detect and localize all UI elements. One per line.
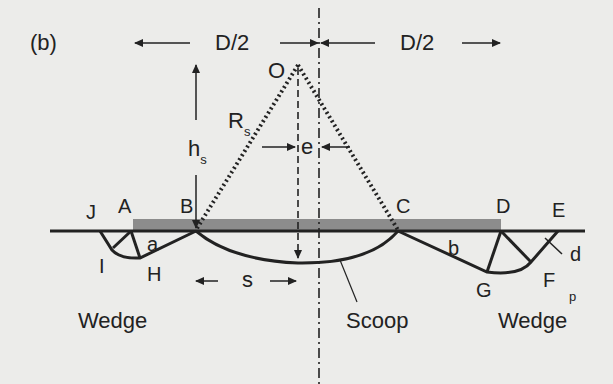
label-a: a (147, 234, 158, 254)
panel-label: (b) (30, 32, 57, 54)
point-I: I (99, 256, 105, 276)
region-right-wedge: Wedge (498, 310, 567, 332)
point-A: A (118, 196, 131, 216)
point-D: D (496, 196, 510, 216)
region-scoop: Scoop (346, 310, 408, 332)
right-wedge-d-tick (545, 238, 562, 254)
right-wedge-DG (487, 231, 501, 272)
label-p: p (569, 290, 576, 303)
point-E: E (552, 200, 565, 220)
point-O: O (268, 60, 285, 82)
dim-eccentricity: e (301, 136, 313, 158)
point-F: F (543, 270, 555, 290)
height-subscript: s (200, 152, 207, 167)
label-b: b (448, 238, 459, 258)
point-J: J (86, 202, 96, 222)
left-wedge-AI (113, 231, 131, 248)
point-C: C (396, 196, 410, 216)
radius-symbol: R (228, 108, 244, 133)
height-symbol: h (188, 136, 200, 161)
dim-height: hs (188, 138, 207, 160)
structure-bar (133, 219, 501, 230)
scoop-arc (196, 231, 398, 263)
dim-offset-s: s (242, 269, 253, 291)
dim-radius: Rs (228, 110, 250, 132)
right-wedge-outline (398, 231, 558, 273)
dim-left-half: D/2 (215, 32, 249, 54)
point-G: G (476, 280, 492, 300)
scoop-leader (340, 260, 357, 302)
left-wedge-AH (131, 231, 140, 258)
dim-right-half: D/2 (400, 32, 434, 54)
right-wedge-DF (501, 231, 531, 262)
point-H: H (147, 264, 161, 284)
label-d: d (570, 244, 581, 264)
point-B: B (180, 196, 193, 216)
radius-subscript: s (244, 124, 251, 139)
region-left-wedge: Wedge (78, 310, 147, 332)
